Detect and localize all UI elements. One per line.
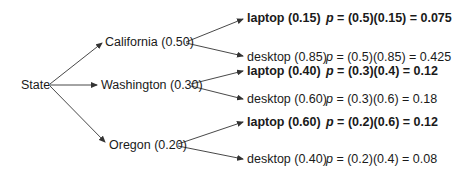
node-oregon: Oregon (0.20) xyxy=(109,138,187,152)
prob-washington-desktop: p = (0.3)(0.6) = 0.18 xyxy=(326,92,437,106)
edge-state-oregon xyxy=(50,86,105,142)
node-california: California (0.50) xyxy=(105,35,194,49)
edge-california-desktop xyxy=(186,43,243,56)
root-node-state: State xyxy=(21,78,50,92)
leaf-california-laptop: laptop (0.15) xyxy=(247,11,321,25)
leaf-california-desktop: desktop (0.85) xyxy=(247,50,327,64)
prob-oregon-laptop: p = (0.2)(0.6) = 0.12 xyxy=(326,115,438,129)
leaf-oregon-desktop: desktop (0.40) xyxy=(247,152,327,166)
prob-oregon-desktop: p = (0.2)(0.4) = 0.08 xyxy=(326,152,437,166)
prob-california-desktop: p = (0.5)(0.85) = 0.425 xyxy=(326,50,451,64)
edge-california-laptop xyxy=(186,19,243,42)
node-washington: Washington (0.30) xyxy=(101,78,203,92)
edge-state-california xyxy=(50,43,102,84)
prob-washington-laptop: p = (0.3)(0.4) = 0.12 xyxy=(326,64,438,78)
leaf-washington-desktop: desktop (0.60) xyxy=(247,92,327,106)
leaf-oregon-laptop: laptop (0.60) xyxy=(247,115,321,129)
prob-california-laptop: p = (0.5)(0.15) = 0.075 xyxy=(326,11,452,25)
leaf-washington-laptop: laptop (0.40) xyxy=(247,64,321,78)
edge-oregon-desktop xyxy=(178,146,243,159)
edge-oregon-laptop xyxy=(178,122,243,144)
